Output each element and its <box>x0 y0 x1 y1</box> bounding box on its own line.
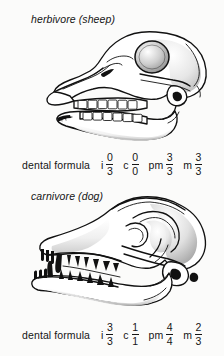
premolar-upper: 4 <box>167 322 173 334</box>
canine-abbr: c <box>123 329 128 341</box>
panel-carnivore: carnivore (dog) <box>0 178 224 356</box>
canine-upper: 1 <box>132 322 138 334</box>
dental-formula-label: dental formula <box>22 159 90 171</box>
premolar-lower: 3 <box>167 165 173 177</box>
incisor-fraction: 0 3 <box>106 152 113 177</box>
premolar-upper: 3 <box>167 152 173 164</box>
incisor-abbr: i <box>101 329 103 341</box>
canine-abbr: c <box>123 159 128 171</box>
premolar-abbr: pm <box>149 159 164 171</box>
tooth-group-canine: c 1 1 <box>123 322 138 347</box>
molar-upper: 2 <box>196 322 202 334</box>
premolar-fraction: 3 3 <box>166 152 173 177</box>
premolar-fraction: 4 4 <box>166 322 173 347</box>
dental-formula-herbivore: dental formula i 0 3 c 0 0 pm <box>0 152 224 177</box>
molar-fraction: 3 3 <box>195 152 202 177</box>
tooth-group-canine: c 0 0 <box>123 152 138 177</box>
canine-fraction: 0 0 <box>132 152 139 177</box>
incisor-upper: 0 <box>107 152 113 164</box>
tooth-group-molar: m 2 3 <box>183 322 202 347</box>
molar-lower: 3 <box>196 165 202 177</box>
canine-upper: 0 <box>132 152 138 164</box>
canine-lower: 1 <box>132 335 138 347</box>
dental-formula-label: dental formula <box>22 329 90 341</box>
eye-socket <box>135 41 169 73</box>
dog-skull-illustration <box>0 178 224 313</box>
molar-upper: 3 <box>196 152 202 164</box>
tooth-group-incisor: i 0 3 <box>101 152 113 177</box>
tooth-group-premolar: pm 4 4 <box>149 322 174 347</box>
incisor-abbr: i <box>101 159 103 171</box>
figure-page: herbivore (sheep) <box>0 0 224 356</box>
molar-abbr: m <box>183 329 192 341</box>
incisor-upper: 3 <box>107 322 113 334</box>
dental-formula-carnivore: dental formula i 3 3 c 1 1 pm <box>0 322 224 347</box>
incisor-fraction: 3 3 <box>106 322 113 347</box>
molar-abbr: m <box>183 159 192 171</box>
molar-lower: 3 <box>196 335 202 347</box>
panel-herbivore: herbivore (sheep) <box>0 0 224 178</box>
incisor-lower: 3 <box>107 335 113 347</box>
upper-incisors-dog <box>41 249 54 264</box>
premolar-lower: 4 <box>167 335 173 347</box>
tooth-group-molar: m 3 3 <box>183 152 202 177</box>
tooth-group-incisor: i 3 3 <box>101 322 113 347</box>
molar-fraction: 2 3 <box>195 322 202 347</box>
canine-lower: 0 <box>132 165 138 177</box>
tooth-group-premolar: pm 3 3 <box>149 152 174 177</box>
lower-incisors-dog <box>34 269 47 280</box>
premolar-abbr: pm <box>149 329 164 341</box>
incisor-lower: 3 <box>107 165 113 177</box>
canine-fraction: 1 1 <box>132 322 139 347</box>
sheep-skull-illustration <box>0 0 224 145</box>
